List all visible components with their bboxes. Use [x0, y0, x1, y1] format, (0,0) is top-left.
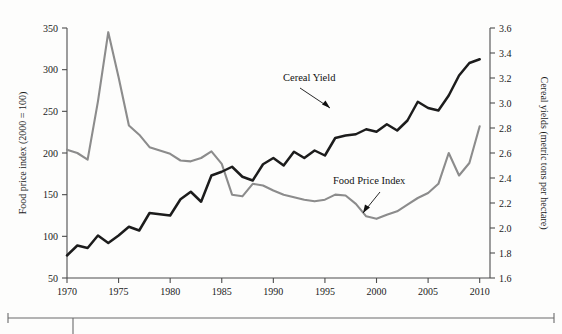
- series-food-price-index: [67, 32, 480, 219]
- left-tick-label: 300: [43, 64, 58, 75]
- cereal-yield-arrow-head: [322, 101, 330, 109]
- right-axis-ticks: 1.61.82.02.22.42.62.83.03.23.43.6: [490, 23, 512, 284]
- x-tick-label: 1975: [109, 286, 129, 297]
- right-tick-label: 2.8: [499, 123, 512, 134]
- right-tick-label: 2.2: [499, 198, 512, 209]
- cereal-yield-annotation-label: Cereal Yield: [283, 72, 336, 83]
- x-tick-label: 2000: [367, 286, 387, 297]
- axes-group: [67, 28, 490, 278]
- left-tick-label: 100: [43, 231, 58, 242]
- footer-rule: [8, 313, 554, 334]
- right-tick-label: 2.6: [499, 148, 512, 159]
- right-tick-label: 1.6: [499, 273, 512, 284]
- left-tick-label: 150: [43, 189, 58, 200]
- x-tick-label: 1985: [212, 286, 232, 297]
- left-tick-label: 250: [43, 106, 58, 117]
- left-tick-label: 350: [43, 23, 58, 34]
- series-cereal-yield: [67, 59, 480, 255]
- left-axis-title: Food price index (2000 = 100): [17, 92, 29, 215]
- left-tick-label: 50: [48, 273, 58, 284]
- right-tick-label: 3.2: [499, 73, 512, 84]
- x-tick-label: 2010: [470, 286, 490, 297]
- cereal-yield-annotation: Cereal Yield: [283, 72, 336, 108]
- x-tick-label: 2005: [418, 286, 438, 297]
- x-tick-label: 1980: [160, 286, 180, 297]
- right-tick-label: 3.4: [499, 48, 512, 59]
- x-tick-label: 1970: [57, 286, 77, 297]
- left-axis-ticks: 50100150200250300350: [43, 23, 67, 284]
- x-tick-label: 1995: [315, 286, 335, 297]
- left-tick-label: 200: [43, 148, 58, 159]
- food-price-index-annotation: Food Price Index: [333, 175, 406, 213]
- right-tick-label: 2.0: [499, 223, 512, 234]
- x-tick-label: 1990: [263, 286, 283, 297]
- food-price-index-annotation-label: Food Price Index: [333, 175, 406, 186]
- right-tick-label: 3.0: [499, 98, 512, 109]
- chart-figure: 50100150200250300350 1.61.82.02.22.42.62…: [0, 0, 562, 334]
- right-axis-title: Cereal yields (metric tons per hectare): [538, 77, 550, 230]
- right-tick-label: 3.6: [499, 23, 512, 34]
- right-tick-label: 2.4: [499, 173, 512, 184]
- x-axis-ticks: 197019751980198519901995200020052010: [57, 278, 490, 297]
- chart-canvas: 50100150200250300350 1.61.82.02.22.42.62…: [0, 0, 562, 334]
- right-tick-label: 1.8: [499, 248, 512, 259]
